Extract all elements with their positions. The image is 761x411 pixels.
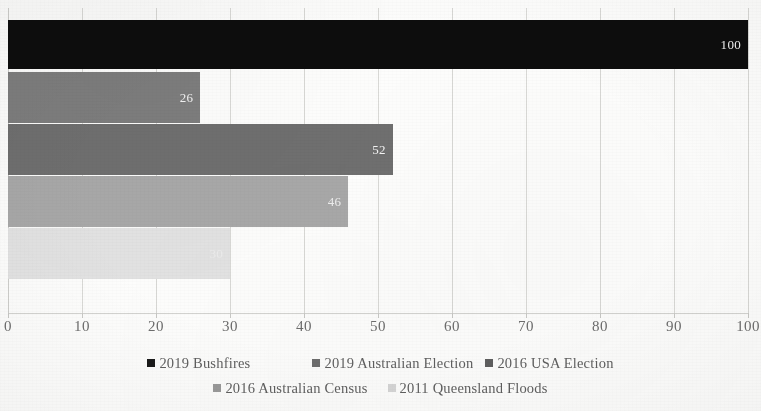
legend-item-label: 2019 Bushfires [159, 355, 250, 371]
legend-item[interactable]: 2019 Bushfires [147, 355, 250, 372]
bar[interactable]: 100 [8, 20, 748, 69]
bar-value-label: 52 [372, 142, 393, 158]
bar-row: 46 [8, 176, 748, 227]
bar-row: 26 [8, 72, 748, 123]
legend-item-label: 2016 USA Election [497, 355, 613, 371]
bar[interactable]: 30 [8, 228, 230, 279]
x-axis-tick-label: 10 [74, 318, 90, 335]
legend-item-label: 2019 Australian Election [324, 355, 473, 371]
x-axis-tick-label: 20 [148, 318, 164, 335]
legend-swatch-icon [485, 359, 493, 367]
legend-row-2: 2016 Australian Census2011 Queensland Fl… [0, 380, 761, 398]
horizontal-bar-chart: 10026524630 0102030405060708090100 2019 … [0, 0, 761, 411]
x-axis-tick-label: 60 [444, 318, 460, 335]
bar-value-label: 46 [328, 194, 349, 210]
bar[interactable]: 46 [8, 176, 348, 227]
legend-item-label: 2016 Australian Census [225, 380, 367, 396]
x-axis-tick-labels: 0102030405060708090100 [0, 318, 761, 342]
bar[interactable]: 26 [8, 72, 200, 123]
x-axis-tick-label: 40 [296, 318, 312, 335]
x-axis-tick-label: 50 [370, 318, 386, 335]
x-axis-tick-label: 100 [736, 318, 760, 335]
bar-series-group: 10026524630 [8, 8, 748, 313]
x-axis-tick-label: 90 [666, 318, 682, 335]
x-axis-tick-label: 0 [4, 318, 12, 335]
bar-value-label: 26 [180, 90, 201, 106]
bar-value-label: 100 [721, 37, 748, 53]
legend-swatch-icon [388, 384, 396, 392]
bar-row: 52 [8, 124, 748, 175]
x-axis-tick-label: 80 [592, 318, 608, 335]
bar-row: 100 [8, 20, 748, 69]
legend-item-label: 2011 Queensland Floods [400, 380, 548, 396]
bar[interactable]: 52 [8, 124, 393, 175]
legend-item[interactable]: 2019 Australian Election [312, 355, 473, 372]
legend-swatch-icon [312, 359, 320, 367]
legend-row-1: 2019 Bushfires2019 Australian Election20… [0, 355, 761, 373]
legend-item[interactable]: 2016 Australian Census [213, 380, 367, 397]
legend-swatch-icon [213, 384, 221, 392]
gridline [748, 8, 749, 313]
legend-item[interactable]: 2011 Queensland Floods [388, 380, 548, 397]
bar-value-label: 30 [209, 246, 230, 262]
legend-item[interactable]: 2016 USA Election [485, 355, 613, 372]
bar-row: 30 [8, 228, 748, 279]
x-axis-tick-label: 30 [222, 318, 238, 335]
plot-area: 10026524630 [8, 8, 748, 313]
legend-swatch-icon [147, 359, 155, 367]
x-axis-tick-label: 70 [518, 318, 534, 335]
